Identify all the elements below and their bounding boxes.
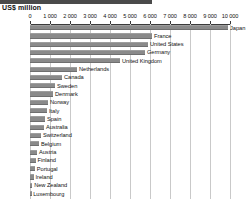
bar-category-label: Denmark [55, 91, 78, 98]
bar [30, 25, 228, 30]
bar-row: Ireland [0, 173, 251, 181]
bar-category-label: Australia [46, 124, 68, 131]
bar [30, 125, 44, 130]
bar [30, 67, 77, 72]
bar-category-label: Canada [64, 74, 84, 81]
bar-category-label: Ireland [36, 174, 53, 181]
bar-category-label: Belgium [41, 141, 61, 148]
bar-category-label: United Kingdom [122, 58, 162, 65]
bar-row: Netherlands [0, 66, 251, 74]
x-tick-label: 9 000 [203, 13, 217, 19]
bar [30, 174, 34, 179]
bar-category-label: Luxembourg [33, 191, 64, 198]
bar-row: Japan [0, 24, 251, 32]
bar-row: Switzerland [0, 132, 251, 140]
plot-area: 01 0002 0003 0004 0005 0006 0007 0008 00… [0, 13, 251, 199]
x-tick-label: 5 000 [123, 13, 137, 19]
bar [30, 133, 41, 138]
bar [30, 75, 62, 80]
x-tick-label: 6 000 [143, 13, 157, 19]
bar [30, 83, 55, 88]
bar-row: Sweden [0, 82, 251, 90]
bar-row: Spain [0, 115, 251, 123]
bar-category-label: Spain [47, 116, 61, 123]
bar [30, 50, 145, 55]
bar [30, 183, 32, 188]
bar [30, 191, 32, 196]
bar-row: United Kingdom [0, 57, 251, 65]
x-tick-label: 2 000 [63, 13, 77, 19]
bar [30, 166, 35, 171]
x-tick-label: 10 000 [222, 13, 239, 19]
x-tick-label: 4 000 [103, 13, 117, 19]
bar-category-label: France [154, 33, 171, 40]
bar [30, 91, 53, 96]
bar [30, 141, 39, 146]
bar-row: Norway [0, 99, 251, 107]
x-tick-label: 0 [28, 13, 31, 19]
bar-row: New Zealand [0, 182, 251, 190]
x-tick-label: 8 000 [183, 13, 197, 19]
bar-category-label: Netherlands [79, 66, 109, 73]
bar-row: Luxembourg [0, 190, 251, 198]
bar-row: Portugal [0, 165, 251, 173]
x-tick-label: 7 000 [163, 13, 177, 19]
bar-row: Canada [0, 74, 251, 82]
bar [30, 100, 48, 105]
bar-row: Australia [0, 124, 251, 132]
bar [30, 158, 36, 163]
x-tick-label: 3 000 [83, 13, 97, 19]
bar [30, 42, 148, 47]
bar-chart: US$ million 01 0002 0003 0004 0005 0006 … [0, 0, 251, 199]
bar-category-label: United States [150, 41, 184, 48]
bar-rows: JapanFranceUnited StatesGermanyUnited Ki… [0, 24, 251, 199]
bar-category-label: Japan [230, 25, 245, 32]
bar-row: Austria [0, 149, 251, 157]
bar [30, 116, 45, 121]
x-tick-label: 1 000 [43, 13, 57, 19]
bar-category-label: Germany [147, 49, 170, 56]
bar-category-label: Norway [50, 99, 69, 106]
bar-row: Germany [0, 49, 251, 57]
bar [30, 150, 37, 155]
bar-category-label: Portugal [37, 166, 58, 173]
bar [30, 108, 47, 113]
bar [30, 58, 120, 63]
bar-category-label: Switzerland [43, 132, 72, 139]
bar-row: Italy [0, 107, 251, 115]
bar-row: France [0, 32, 251, 40]
bar-row: United States [0, 41, 251, 49]
bar-category-label: Sweden [57, 83, 77, 90]
chart-axis-title: US$ million [2, 4, 41, 11]
bar [30, 33, 152, 38]
bar-row: Belgium [0, 140, 251, 148]
bar-category-label: New Zealand [34, 182, 67, 189]
bar-row: Denmark [0, 90, 251, 98]
bar-category-label: Italy [49, 108, 59, 115]
bar-category-label: Austria [39, 149, 56, 156]
bar-category-label: Finland [38, 157, 56, 164]
bar-row: Finland [0, 157, 251, 165]
